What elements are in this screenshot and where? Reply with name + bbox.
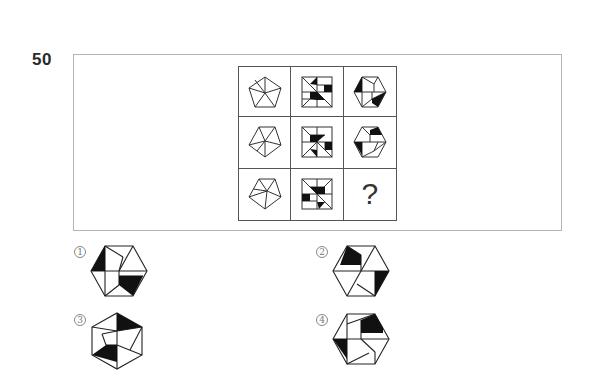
- option-label-4: 4: [316, 314, 328, 326]
- hexagon-icon: [352, 75, 388, 109]
- pentagon-icon: [247, 177, 283, 211]
- option-label-3: 3: [74, 314, 86, 326]
- question-number: 50: [32, 50, 52, 70]
- grid-cell-r1-c3: [344, 67, 396, 117]
- grid-cell-r2-c3: [344, 117, 396, 168]
- option-label-1: 1: [74, 246, 86, 258]
- grid-cell-r1-c2: [291, 67, 343, 117]
- question-mark: ?: [361, 179, 378, 209]
- option-label-2: 2: [316, 246, 328, 258]
- square-pattern-icon: [301, 76, 333, 108]
- hexagon-option-3-icon: [90, 312, 144, 370]
- square-pattern-icon: [301, 126, 333, 158]
- hexagon-option-1-icon: [90, 244, 148, 298]
- pentagon-icon: [247, 75, 283, 109]
- grid-cell-r3-c3-missing: ?: [344, 169, 396, 220]
- grid-cell-r2-c2: [291, 117, 343, 168]
- option-1[interactable]: 1: [74, 244, 154, 300]
- hexagon-option-2-icon: [332, 244, 390, 298]
- square-pattern-icon: [301, 178, 333, 210]
- hexagon-icon: [352, 125, 388, 159]
- hexagon-option-4-icon: [332, 312, 390, 366]
- puzzle-grid: ?: [238, 66, 397, 221]
- grid-cell-r3-c2: [291, 169, 343, 220]
- grid-cell-r3-c1: [239, 169, 291, 220]
- grid-cell-r2-c1: [239, 117, 291, 168]
- grid-cell-r1-c1: [239, 67, 291, 117]
- pentagon-icon: [247, 125, 283, 159]
- option-4[interactable]: 4: [316, 312, 396, 372]
- option-3[interactable]: 3: [74, 312, 154, 372]
- option-2[interactable]: 2: [316, 244, 396, 300]
